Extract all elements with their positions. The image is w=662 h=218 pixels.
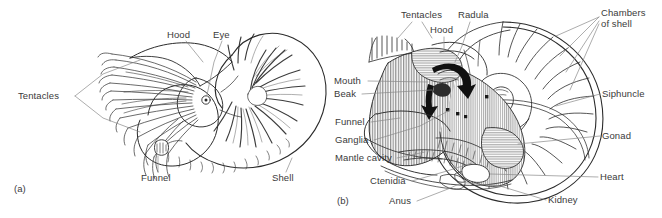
label-ganglia: Ganglia — [335, 134, 368, 145]
label-tentacles-a: Tentacles — [18, 90, 59, 101]
panel-a-drawing — [98, 33, 326, 179]
label-siphuncle: Siphuncle — [602, 88, 645, 99]
label-funnel-a: Funnel — [141, 172, 171, 183]
tentacles — [98, 53, 198, 179]
leader-gonad — [518, 136, 600, 144]
label-mouth: Mouth — [334, 75, 361, 86]
leader-chambers-1 — [556, 17, 599, 36]
label-tentacles-b: Tentacles — [401, 9, 442, 20]
leader-siphuncle — [556, 94, 600, 106]
panel-b-id: (b) — [337, 195, 349, 206]
leader-tentacles-a-lower — [75, 96, 140, 132]
label-gonad: Gonad — [602, 130, 631, 141]
label-heart: Heart — [600, 171, 624, 182]
leader-tentacles-b-1 — [398, 22, 412, 38]
label-shell-a: Shell — [272, 172, 294, 183]
label-funnel-b: Funnel — [335, 116, 365, 127]
nautilus-anatomy-figure: Tentacles Hood Eye Funnel Shell (a) Tent… — [0, 0, 662, 218]
label-hood-a: Hood — [167, 29, 190, 40]
leader-shell-a — [286, 158, 292, 172]
label-chambers-of-shell-line2: of shell — [601, 18, 632, 29]
panel-a-id: (a) — [14, 183, 26, 194]
label-chambers-of-shell-line1: Chambers — [601, 7, 646, 18]
leader-tentacles-a-upper — [75, 60, 140, 96]
label-kidney: Kidney — [548, 194, 578, 205]
label-radula-b: Radula — [458, 9, 489, 20]
label-hood-b: Hood — [430, 24, 453, 35]
figure-drawing — [0, 0, 662, 218]
label-beak: Beak — [334, 88, 356, 99]
label-ctenidia: Ctenidia — [370, 175, 406, 186]
label-anus: Anus — [389, 195, 411, 206]
label-mantle-cavity: Mantle cavity — [335, 152, 392, 163]
label-eye-a: Eye — [213, 29, 230, 40]
